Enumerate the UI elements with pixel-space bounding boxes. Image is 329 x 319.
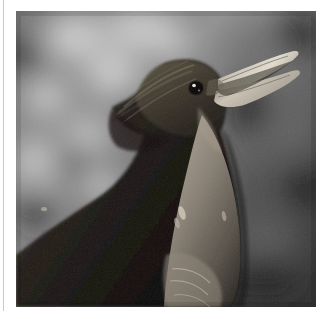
film-grain	[16, 11, 316, 307]
left-margin-rule	[3, 0, 4, 311]
photo-page	[0, 0, 329, 319]
photograph-canvas	[16, 11, 316, 307]
bird-photograph	[16, 11, 316, 307]
